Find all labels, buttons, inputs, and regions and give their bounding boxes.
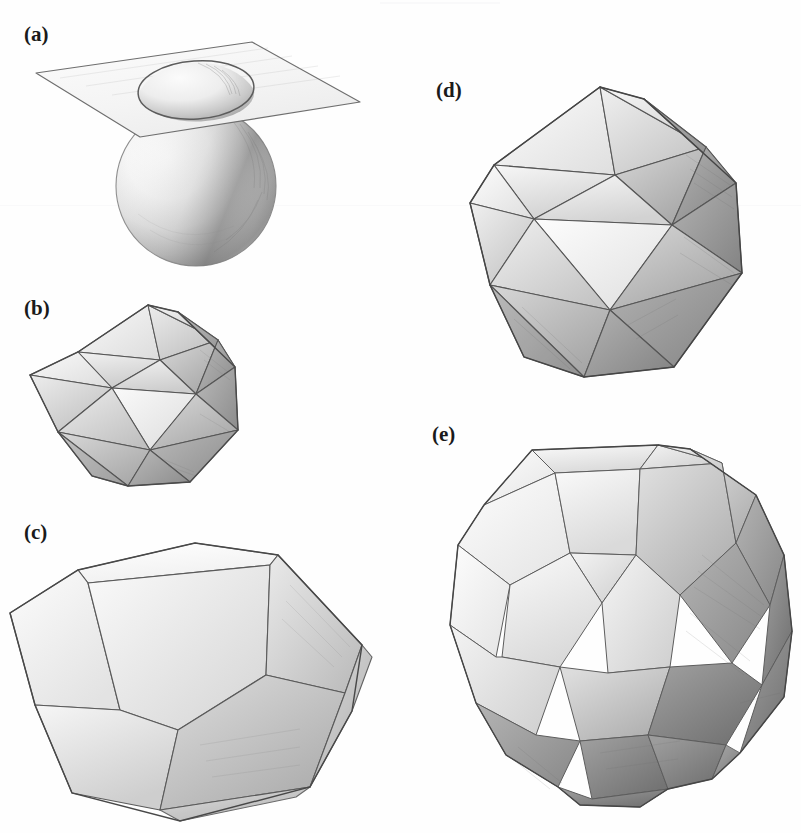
icosahedron-large-faces — [470, 87, 742, 377]
panel-a-drawing — [0, 0, 400, 300]
icosahedron-small-faces — [30, 305, 238, 486]
panel-e-drawing — [440, 435, 801, 825]
panel-a: (a) — [0, 0, 400, 300]
icosid-face-upper-mid — [555, 469, 640, 555]
panel-b-drawing — [0, 290, 330, 520]
dodeca-face-upper-right — [266, 555, 362, 693]
figure-root: (a) — [0, 0, 801, 833]
panel-c-drawing — [0, 525, 390, 825]
dodecahedron-faces — [10, 543, 372, 821]
panel-d-label: (d) — [436, 78, 462, 103]
panel-d-drawing — [460, 75, 790, 425]
panel-a-label: (a) — [24, 22, 49, 47]
